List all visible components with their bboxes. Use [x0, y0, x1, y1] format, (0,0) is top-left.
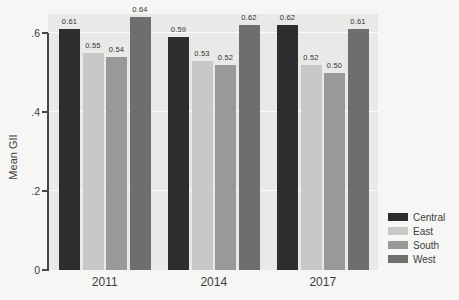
- bar-east-2017: [301, 65, 322, 270]
- legend-row-south: South: [388, 241, 445, 249]
- x-category-label: 2011: [92, 275, 118, 289]
- bar-value-label: 0.52: [218, 53, 233, 62]
- bar-central-2014: [168, 37, 189, 270]
- bar-value-label: 0.54: [109, 45, 124, 54]
- legend-label-south: South: [413, 240, 439, 251]
- plot-area: 0.610.550.540.640.590.530.520.620.620.52…: [48, 14, 378, 270]
- bar-value-label: 0.62: [241, 13, 256, 22]
- y-tick: [42, 32, 48, 34]
- bar-value-label: 0.59: [171, 25, 186, 34]
- bar-south-2014: [215, 65, 236, 270]
- y-tick: [42, 111, 48, 113]
- y-axis-title-text: Mean GII: [7, 134, 19, 179]
- bar-value-label: 0.62: [280, 13, 295, 22]
- legend-swatch-west: [388, 255, 408, 263]
- bar-central-2017: [277, 25, 298, 270]
- bar-value-label: 0.55: [85, 41, 100, 50]
- y-axis-line: [47, 33, 49, 271]
- y-axis-title: Mean GII: [7, 149, 19, 165]
- bar-value-label: 0.64: [132, 5, 147, 14]
- gridline: [48, 32, 378, 33]
- bar-value-label: 0.52: [303, 53, 318, 62]
- legend: Central East South West: [388, 213, 445, 263]
- bar-south-2017: [324, 73, 345, 271]
- bar-east-2011: [83, 53, 104, 270]
- legend-row-west: West: [388, 255, 445, 263]
- bar-west-2014: [239, 25, 260, 270]
- y-tick: [42, 190, 48, 192]
- legend-label-west: West: [413, 254, 436, 265]
- bar-value-label: 0.53: [194, 49, 209, 58]
- bar-central-2011: [59, 29, 80, 270]
- bar-west-2017: [348, 29, 369, 270]
- x-category-label: 2014: [200, 275, 227, 289]
- y-tick: [42, 269, 48, 271]
- y-tick-label: .2: [31, 185, 40, 197]
- bar-chart: 0.610.550.540.640.590.530.520.620.620.52…: [0, 0, 459, 300]
- legend-row-central: Central: [388, 213, 445, 221]
- legend-label-east: East: [413, 226, 433, 237]
- y-tick-label: .6: [31, 27, 40, 39]
- bar-value-label: 0.61: [350, 17, 365, 26]
- bar-value-label: 0.50: [327, 61, 342, 70]
- bar-value-label: 0.61: [62, 17, 77, 26]
- x-category-label: 2017: [309, 275, 336, 289]
- legend-swatch-central: [388, 213, 408, 221]
- legend-label-central: Central: [413, 212, 445, 223]
- y-tick-label: 0: [34, 264, 40, 276]
- legend-row-east: East: [388, 227, 445, 235]
- y-tick-label: .4: [31, 106, 40, 118]
- bar-west-2011: [130, 17, 151, 270]
- legend-swatch-east: [388, 227, 408, 235]
- bar-east-2014: [192, 61, 213, 270]
- legend-swatch-south: [388, 241, 408, 249]
- bar-south-2011: [106, 57, 127, 270]
